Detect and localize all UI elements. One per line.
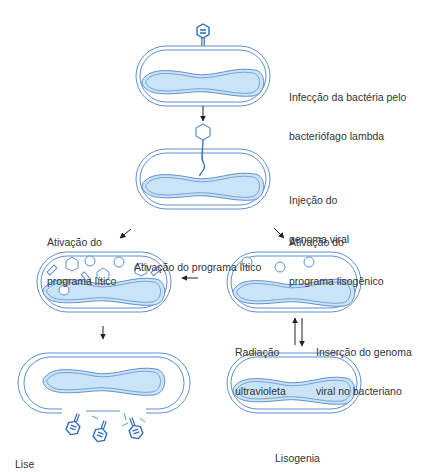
membrane-fragments [92,413,145,426]
phage-icon [197,24,209,46]
stage-injection [136,124,270,209]
empty-phage-capsid-icon [196,124,210,140]
label-uv-radiation: Radiação ultravioleta [235,320,286,411]
label-lytic-activation-center: Ativação do programa lítico [134,235,261,287]
label-lysogenic-activation: Ativação do programa lisogênico [289,210,384,301]
released-phage-icon [92,419,111,444]
label-genome-insertion: Inserção do genoma viral no bacteriano [316,320,412,411]
stage-infection [136,24,270,106]
label-lysogeny: Lisogenia [275,426,320,472]
label-infection: Infecção da bactéria pelo bacteriófago l… [289,65,406,156]
label-lysis: Lise [15,432,34,472]
label-lytic-activation: Ativação do programa lítico [47,210,116,301]
arrow-down-right-icon [274,228,284,238]
arrow-down-left-icon [120,229,131,238]
stage-lysis [18,353,190,444]
released-phage-icon [65,412,84,437]
